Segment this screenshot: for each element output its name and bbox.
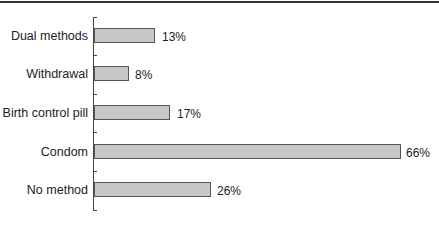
axis-tick: [93, 17, 97, 18]
value-label: 17%: [177, 107, 201, 121]
axis-tick: [93, 210, 97, 211]
category-label: Withdrawal: [26, 67, 88, 81]
bar-birth-control-pill: [94, 105, 170, 120]
axis-tick: [93, 94, 97, 95]
axis-tick: [93, 171, 97, 172]
chart: Dual methods 13% Withdrawal 8% Birth con…: [0, 0, 439, 225]
axis-tick: [93, 132, 97, 133]
bar-dual-methods: [94, 28, 155, 43]
category-label: Dual methods: [11, 29, 88, 43]
value-label: 13%: [162, 30, 186, 44]
axis-tick: [93, 55, 97, 56]
top-rule: [0, 1, 439, 3]
value-label: 8%: [135, 68, 152, 82]
category-label: Birth control pill: [3, 106, 88, 120]
bar-withdrawal: [94, 66, 129, 81]
category-label: No method: [27, 183, 88, 197]
bar-no-method: [94, 182, 211, 197]
value-label: 66%: [406, 146, 430, 160]
value-label: 26%: [217, 184, 241, 198]
bar-condom: [94, 144, 401, 159]
category-label: Condom: [41, 145, 88, 159]
